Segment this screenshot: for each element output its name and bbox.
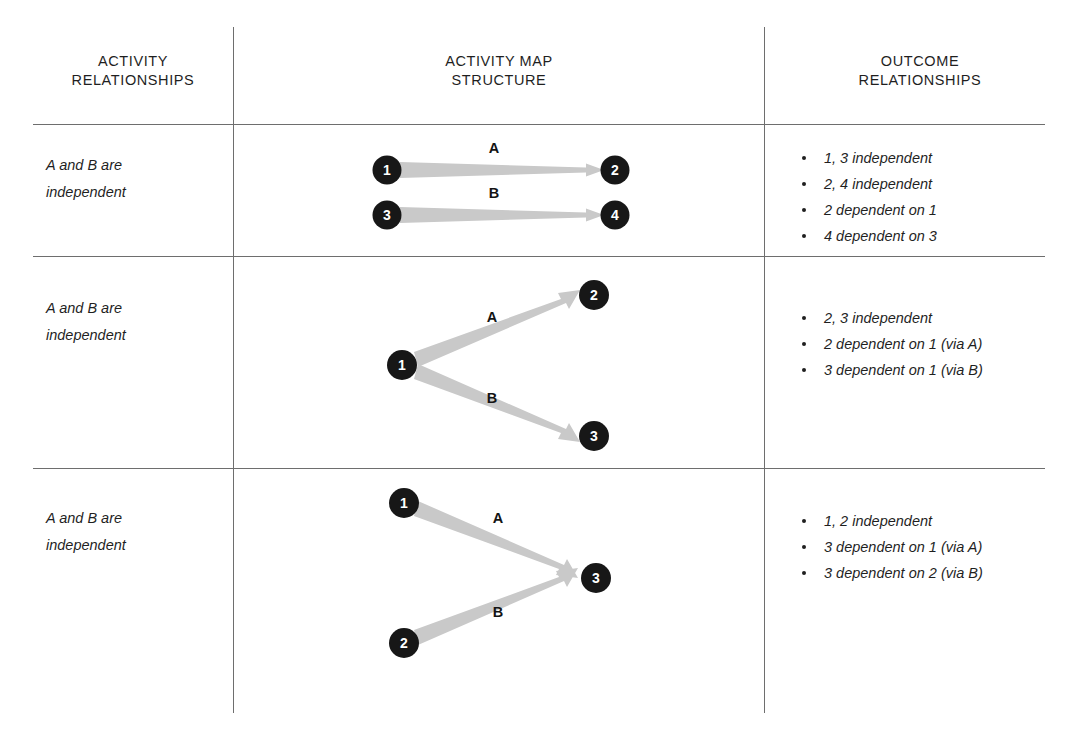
column-header-activity-relationships: ACTIVITY RELATIONSHIPS	[33, 52, 233, 90]
column-header-line-1: OUTCOME	[795, 52, 1045, 71]
outcome-text: 4 dependent on 3	[824, 228, 937, 244]
header-rule	[33, 124, 1045, 125]
column-header-line-1: ACTIVITY	[33, 52, 233, 71]
relationship-line-1: A and B are	[46, 295, 226, 322]
list-item: 2 dependent on 1 (via A)	[800, 331, 1065, 357]
activity-relationship-row-3: A and B are independent	[46, 505, 226, 559]
row-rule-2	[33, 468, 1045, 469]
edge-label-a: A	[493, 510, 504, 526]
relationship-line-1: A and B are	[46, 505, 226, 532]
node-1: 1	[389, 488, 419, 518]
activity-map-diagram-row-3: 1 2 3 A B	[374, 475, 654, 675]
edge-b-row-1	[400, 207, 604, 223]
node-3: 3	[581, 563, 611, 593]
list-item: 2, 3 independent	[800, 305, 1065, 331]
node-2-label: 2	[400, 635, 408, 651]
list-item: 3 dependent on 2 (via B)	[800, 560, 1065, 586]
column-header-outcome-relationships: OUTCOME RELATIONSHIPS	[795, 52, 1045, 90]
outcome-list-row-3: 1, 2 independent 3 dependent on 1 (via A…	[800, 508, 1065, 586]
column-header-line-2: RELATIONSHIPS	[33, 71, 233, 90]
node-1-label: 1	[400, 495, 408, 511]
edge-label-a: A	[487, 309, 498, 325]
edge-label-b: B	[487, 390, 497, 406]
column-header-line-2: STRUCTURE	[334, 71, 664, 90]
node-2-label: 2	[590, 287, 598, 303]
edge-b-arrow-shape	[400, 207, 604, 223]
bullet-icon	[802, 368, 806, 372]
outcome-text: 2, 4 independent	[824, 176, 932, 192]
outcome-text: 3 dependent on 2 (via B)	[824, 565, 983, 581]
column-header-line-1: ACTIVITY MAP	[334, 52, 664, 71]
list-item: 1, 2 independent	[800, 508, 1065, 534]
activity-map-diagram-row-2: 1 2 3 A B	[372, 268, 652, 468]
outcome-text: 3 dependent on 1 (via B)	[824, 362, 983, 378]
column-header-activity-map-structure: ACTIVITY MAP STRUCTURE	[334, 52, 664, 90]
edge-label-b: B	[493, 604, 503, 620]
bullet-icon	[802, 156, 806, 160]
edge-label-a: A	[489, 140, 500, 156]
outcome-list-row-2: 2, 3 independent 2 dependent on 1 (via A…	[800, 305, 1065, 383]
list-item: 2, 4 independent	[800, 171, 1065, 197]
node-2: 2	[579, 280, 609, 310]
outcome-relationships-row-3: 1, 2 independent 3 dependent on 1 (via A…	[800, 508, 1065, 586]
node-2: 2	[601, 156, 630, 185]
node-3: 3	[579, 421, 609, 451]
relationship-line-2: independent	[46, 179, 226, 206]
outcome-text: 3 dependent on 1 (via A)	[824, 539, 982, 555]
bullet-icon	[802, 208, 806, 212]
node-2-label: 2	[611, 162, 619, 178]
bullet-icon	[802, 316, 806, 320]
activity-relationship-row-1: A and B are independent	[46, 152, 226, 206]
activity-relationship-row-2: A and B are independent	[46, 295, 226, 349]
list-item: 2 dependent on 1	[800, 197, 1065, 223]
list-item: 4 dependent on 3	[800, 223, 1065, 249]
outcome-text: 2 dependent on 1 (via A)	[824, 336, 982, 352]
column-divider-right	[764, 27, 765, 713]
edge-label-b: B	[489, 185, 499, 201]
column-header-line-2: RELATIONSHIPS	[795, 71, 1045, 90]
node-3-label: 3	[383, 207, 391, 223]
edge-a-arrow-shape	[400, 162, 604, 178]
edge-a-row-1	[400, 162, 604, 178]
bullet-icon	[802, 519, 806, 523]
activity-map-table: ACTIVITY RELATIONSHIPS ACTIVITY MAP STRU…	[0, 0, 1076, 741]
outcome-text: 2 dependent on 1	[824, 202, 937, 218]
outcome-text: 1, 3 independent	[824, 150, 932, 166]
activity-map-diagram-row-1: 1 2 3 4 A B	[354, 135, 654, 245]
bullet-icon	[802, 342, 806, 346]
node-4: 4	[601, 201, 630, 230]
node-3: 3	[373, 201, 402, 230]
list-item: 1, 3 independent	[800, 145, 1065, 171]
outcome-relationships-row-2: 2, 3 independent 2 dependent on 1 (via A…	[800, 305, 1065, 383]
node-1: 1	[373, 156, 402, 185]
edge-a-arrow-shape	[414, 290, 580, 367]
node-1-label: 1	[383, 162, 391, 178]
column-divider-left	[233, 27, 234, 713]
relationship-line-1: A and B are	[46, 152, 226, 179]
node-2: 2	[389, 628, 419, 658]
relationship-line-2: independent	[46, 532, 226, 559]
outcome-list-row-1: 1, 3 independent 2, 4 independent 2 depe…	[800, 145, 1065, 249]
bullet-icon	[802, 234, 806, 238]
list-item: 3 dependent on 1 (via B)	[800, 357, 1065, 383]
bullet-icon	[802, 571, 806, 575]
node-1-label: 1	[398, 357, 406, 373]
edge-a-row-2	[414, 290, 580, 367]
list-item: 3 dependent on 1 (via A)	[800, 534, 1065, 560]
outcome-text: 2, 3 independent	[824, 310, 932, 326]
bullet-icon	[802, 545, 806, 549]
outcome-text: 1, 2 independent	[824, 513, 932, 529]
node-3-label: 3	[592, 570, 600, 586]
bullet-icon	[802, 182, 806, 186]
node-4-label: 4	[611, 207, 619, 223]
row-rule-1	[33, 256, 1045, 257]
node-1: 1	[387, 350, 417, 380]
outcome-relationships-row-1: 1, 3 independent 2, 4 independent 2 depe…	[800, 145, 1065, 249]
relationship-line-2: independent	[46, 322, 226, 349]
node-3-label: 3	[590, 428, 598, 444]
